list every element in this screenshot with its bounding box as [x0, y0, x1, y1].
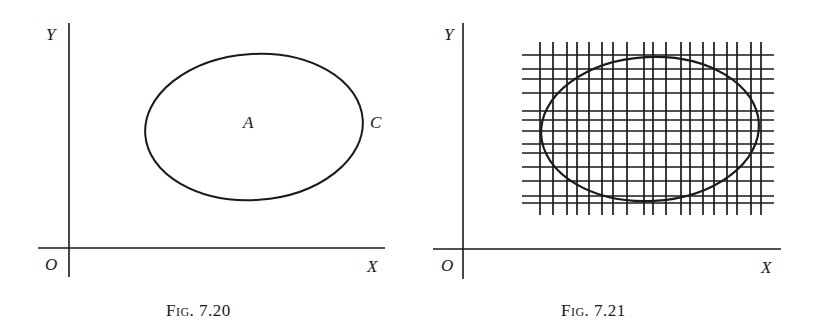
- figure-caption: Fig. 7.21: [561, 302, 626, 319]
- figure-page: Y O X A C Fig. 7.20 Y O X Fig. 7.21: [0, 0, 823, 336]
- boundary-curve-label: C: [370, 114, 381, 131]
- region-boundary-curve: [537, 51, 762, 206]
- partition-grid: [522, 42, 774, 215]
- y-axis-label: Y: [46, 26, 55, 43]
- figure-caption: Fig. 7.20: [166, 302, 231, 319]
- x-axis-label: X: [761, 259, 771, 276]
- diagram-canvas: [0, 0, 823, 336]
- region-boundary-curve: [140, 47, 368, 208]
- region-label: A: [243, 114, 253, 131]
- origin-label: O: [45, 256, 57, 273]
- figure-7-20-graphics: [38, 23, 385, 277]
- origin-label: O: [441, 257, 453, 274]
- x-axis-label: X: [367, 258, 377, 275]
- y-axis-label: Y: [444, 26, 453, 43]
- figure-7-21-graphics: [433, 23, 781, 279]
